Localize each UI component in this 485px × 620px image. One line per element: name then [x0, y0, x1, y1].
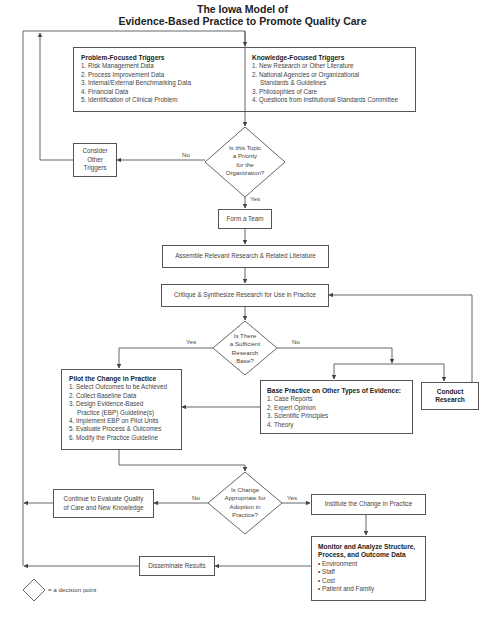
triggers-box: Problem-Focused Triggers 1. Risk Managem…: [73, 47, 416, 112]
decision-text-line: Adoption in: [208, 503, 282, 511]
monitor-item: • Environment: [318, 560, 425, 568]
monitor-analyze-box: Monitor and Analyze Structure, Process, …: [311, 536, 426, 601]
problem-trigger-item: 4. Financial Data: [81, 88, 191, 96]
base-practice-item: 3. Scientific Principles: [267, 412, 412, 420]
decision-text-line: a Sufficient: [213, 340, 277, 348]
institute-change-box: Institute the Change in Practice: [311, 494, 426, 515]
decision-text-line: Practice?: [208, 511, 282, 519]
decision1-no-label: No: [182, 151, 190, 158]
monitor-item: • Staff: [318, 568, 425, 576]
decision1-yes-label: Yes: [250, 195, 260, 202]
knowledge-trigger-item: 1. New Research or Other Literature: [252, 62, 398, 70]
problem-trigger-item: 2. Process Improvement Data: [81, 71, 191, 79]
decision3-yes-label: Yes: [287, 494, 297, 501]
monitor-item: • Cost: [318, 577, 425, 585]
disseminate-results-box: Disseminate Results: [139, 556, 215, 576]
form-team-box: Form a Team: [218, 209, 272, 229]
legend-decision-point: = a decision point: [48, 586, 96, 593]
decision2-yes-label: Yes: [186, 338, 196, 345]
decision-text-line: Is this Topic: [205, 144, 285, 152]
knowledge-focused-triggers: Knowledge-Focused Triggers 1. New Resear…: [252, 54, 398, 104]
pilot-heading: Pilot the Change in Practice: [69, 375, 181, 383]
decision-change-appropriate: Is Change Appropriate for Adoption in Pr…: [208, 486, 282, 519]
base-practice-heading: Base Practice on Other Types of Evidence…: [267, 387, 412, 395]
monitor-item: • Patient and Family: [318, 585, 425, 593]
decision-text-line: Research: [213, 349, 277, 357]
pilot-item: 3. Design Evidence-Based: [69, 400, 181, 408]
decision-topic-priority: Is this Topic a Priority for the Organiz…: [205, 144, 285, 177]
pilot-item: 2. Collect Baseline Data: [69, 392, 181, 400]
decision-sufficient-research: Is There a Sufficient Research Base?: [213, 332, 277, 365]
decision-text-line: a Priority: [205, 152, 285, 160]
decision2-no-label: No: [292, 338, 300, 345]
decision-text-line: Organization?: [205, 169, 285, 177]
box-text-line: Continue to Evaluate Quality: [64, 495, 144, 503]
knowledge-triggers-heading: Knowledge-Focused Triggers: [252, 54, 398, 62]
decision-text-line: Is Change: [208, 486, 282, 494]
problem-triggers-heading: Problem-Focused Triggers: [81, 54, 191, 62]
monitor-heading-line: Process, and Outcome Data: [318, 551, 425, 559]
decision-text-line: Appropriate for: [208, 494, 282, 502]
problem-trigger-item: 1. Risk Management Data: [81, 62, 191, 70]
decision-text-line: Is There: [213, 332, 277, 340]
pilot-item: 5. Evaluate Process & Outcomes: [69, 425, 181, 433]
box-text-line: Conduct: [437, 388, 464, 397]
conduct-research-box: Conduct Research: [421, 382, 479, 410]
decision3-no-label: No: [192, 494, 200, 501]
pilot-item: 4. Implement EBP on Pilot Units: [69, 417, 181, 425]
consider-other-triggers-box: Consider Other Triggers: [73, 143, 117, 177]
pilot-change-box: Pilot the Change in Practice 1. Select O…: [61, 369, 182, 450]
knowledge-trigger-item: 4. Questions from Institutional Standard…: [252, 96, 398, 104]
problem-trigger-item: 3. Internal/External Benchmarking Data: [81, 79, 191, 87]
base-practice-item: 4. Theory: [267, 421, 412, 429]
box-text-line: of Care and New Knowledge: [63, 504, 143, 512]
box-text-line: Research: [435, 396, 465, 405]
base-practice-item: 1. Case Reports: [267, 395, 412, 403]
box-text-line: Triggers: [84, 164, 107, 172]
decision-text-line: Base?: [213, 357, 277, 365]
knowledge-trigger-item: 2. National Agencies or Organizational: [252, 71, 398, 79]
decision-text-line: for the: [205, 161, 285, 169]
box-text-line: Other: [87, 156, 103, 164]
assemble-research-box: Assemble Relevant Research & Related Lit…: [162, 245, 329, 268]
knowledge-trigger-item: 3. Philosophies of Care: [252, 88, 398, 96]
pilot-item: Practice (EBP) Guideline(s): [69, 409, 181, 417]
problem-trigger-item: 5. Identification of Clinical Problem: [81, 96, 191, 104]
base-practice-item: 2. Expert Opinion: [267, 404, 412, 412]
critique-synthesize-box: Critique & Synthesize Research for Use i…: [161, 284, 329, 307]
monitor-heading-line: Monitor and Analyze Structure,: [318, 543, 425, 551]
knowledge-trigger-item: Standards & Guidelines: [252, 79, 398, 87]
problem-focused-triggers: Problem-Focused Triggers 1. Risk Managem…: [81, 54, 191, 104]
pilot-item: 6. Modify the Practice Guideline: [69, 434, 181, 442]
base-practice-box: Base Practice on Other Types of Evidence…: [260, 380, 413, 434]
box-text-line: Consider: [82, 147, 107, 155]
continue-evaluate-box: Continue to Evaluate Quality of Care and…: [53, 489, 154, 518]
pilot-item: 1. Select Outcomes to be Achieved: [69, 383, 181, 391]
